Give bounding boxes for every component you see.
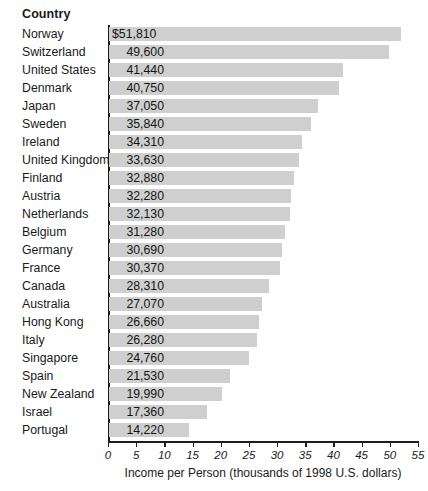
x-axis-tick xyxy=(221,441,222,447)
country-label: Singapore xyxy=(22,349,78,367)
bar-value-label: 21,530 xyxy=(112,367,164,385)
bar-row: Australia27,070 xyxy=(0,295,428,313)
country-label: Belgium xyxy=(22,223,66,241)
x-axis-tick-label: 20 xyxy=(214,449,227,461)
bar-value-label: 32,280 xyxy=(112,187,164,205)
bar-value-label: 32,130 xyxy=(112,205,164,223)
x-axis-tick-label: 10 xyxy=(158,449,171,461)
country-label: Denmark xyxy=(22,79,72,97)
bar-row: Hong Kong26,660 xyxy=(0,313,428,331)
bar-row: Ireland34,310 xyxy=(0,133,428,151)
country-label: Austria xyxy=(22,187,60,205)
bar-value-label: 26,660 xyxy=(112,313,164,331)
bar-value-label: 14,220 xyxy=(112,421,164,439)
country-label: Norway xyxy=(22,25,64,43)
bar-value-label: 17,360 xyxy=(112,403,164,421)
bar-row: Sweden35,840 xyxy=(0,115,428,133)
bar-row: Singapore24,760 xyxy=(0,349,428,367)
bar-row: Spain21,530 xyxy=(0,367,428,385)
bar-row: Finland32,880 xyxy=(0,169,428,187)
country-label: France xyxy=(22,259,60,277)
bar-row: Netherlands32,130 xyxy=(0,205,428,223)
bar-row: Norway$51,810 xyxy=(0,25,428,43)
x-axis-tick xyxy=(390,441,391,447)
x-axis-tick-label: 55 xyxy=(412,449,425,461)
bar-chart-figure: Country Norway$51,810Switzerland49,600Un… xyxy=(0,0,428,491)
country-label: Canada xyxy=(22,277,65,295)
country-label: United Kingdom xyxy=(22,151,110,169)
bar-value-label: 37,050 xyxy=(112,97,164,115)
x-axis-tick-label: 50 xyxy=(383,449,396,461)
x-axis-tick-label: 45 xyxy=(355,449,368,461)
bar-row: Belgium31,280 xyxy=(0,223,428,241)
country-label: Australia xyxy=(22,295,70,313)
x-axis-tick-label: 15 xyxy=(186,449,199,461)
bar-value-label: 19,990 xyxy=(112,385,164,403)
bar-value-label: 35,840 xyxy=(112,115,164,133)
x-axis-tick xyxy=(305,441,306,447)
country-label: Germany xyxy=(22,241,73,259)
bar-row: France30,370 xyxy=(0,259,428,277)
x-axis-tick xyxy=(249,441,250,447)
bar-row: United States41,440 xyxy=(0,61,428,79)
bar-row: Switzerland49,600 xyxy=(0,43,428,61)
bar-row: Germany30,690 xyxy=(0,241,428,259)
x-axis-title: Income per Person (thousands of 1998 U.S… xyxy=(108,466,418,480)
x-axis-tick xyxy=(277,441,278,447)
bar-value-label: 27,070 xyxy=(112,295,164,313)
country-column-header: Country xyxy=(22,6,71,22)
x-axis-tick xyxy=(193,441,194,447)
x-axis-tick-label: 5 xyxy=(133,449,139,461)
bar-row: Japan37,050 xyxy=(0,97,428,115)
country-label: United States xyxy=(22,61,96,79)
x-axis-tick xyxy=(418,441,419,447)
x-axis-tick-label: 25 xyxy=(243,449,256,461)
x-axis-tick-label: 0 xyxy=(105,449,111,461)
bar-row: New Zealand19,990 xyxy=(0,385,428,403)
bar-row: Canada28,310 xyxy=(0,277,428,295)
x-axis-tick-label: 30 xyxy=(271,449,284,461)
x-axis-tick xyxy=(333,441,334,447)
bar-row: Austria32,280 xyxy=(0,187,428,205)
bar-row: Portugal14,220 xyxy=(0,421,428,439)
country-label: Ireland xyxy=(22,133,60,151)
bar-value-label: 34,310 xyxy=(112,133,164,151)
x-axis-line xyxy=(108,441,418,443)
bar-row: Italy26,280 xyxy=(0,331,428,349)
bar-value-label: 33,630 xyxy=(112,151,164,169)
country-label: Japan xyxy=(22,97,56,115)
bar-value-label: 28,310 xyxy=(112,277,164,295)
bar-value-label: 31,280 xyxy=(112,223,164,241)
bar-value-label: 49,600 xyxy=(112,43,164,61)
country-label: Spain xyxy=(22,367,53,385)
x-axis-tick xyxy=(108,441,109,447)
country-label: Italy xyxy=(22,331,45,349)
country-label: New Zealand xyxy=(22,385,94,403)
x-axis-tick xyxy=(164,441,165,447)
country-label: Switzerland xyxy=(22,43,86,61)
bar-value-label: 30,370 xyxy=(112,259,164,277)
country-label: Hong Kong xyxy=(22,313,84,331)
bar-row: Israel17,360 xyxy=(0,403,428,421)
x-axis-tick-label: 40 xyxy=(327,449,340,461)
bar-value-label: 26,280 xyxy=(112,331,164,349)
country-label: Sweden xyxy=(22,115,66,133)
x-axis-tick xyxy=(136,441,137,447)
country-label: Israel xyxy=(22,403,52,421)
bar-value-label: 32,880 xyxy=(112,169,164,187)
country-label: Netherlands xyxy=(22,205,88,223)
bar-row: United Kingdom33,630 xyxy=(0,151,428,169)
x-axis-tick-label: 35 xyxy=(299,449,312,461)
x-axis-tick xyxy=(362,441,363,447)
bar-value-label: 41,440 xyxy=(112,61,164,79)
country-label: Portugal xyxy=(22,421,68,439)
bar-value-label: $51,810 xyxy=(112,25,164,43)
bar-value-label: 40,750 xyxy=(112,79,164,97)
bar-value-label: 30,690 xyxy=(112,241,164,259)
bar-row: Denmark40,750 xyxy=(0,79,428,97)
bar-value-label: 24,760 xyxy=(112,349,164,367)
country-label: Finland xyxy=(22,169,62,187)
